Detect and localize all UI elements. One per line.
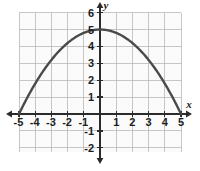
y-axis-arrow-top (97, 2, 104, 8)
x-tick-label: 3 (146, 116, 152, 128)
y-tick-label: 5 (88, 24, 94, 36)
x-tick-label: 5 (178, 116, 184, 128)
y-tick-label: 6 (88, 7, 94, 19)
y-tick-label: 1 (88, 91, 94, 103)
y-tick-label: 2 (88, 74, 94, 86)
x-axis-arrow-right (186, 111, 192, 118)
x-tick-label: -4 (30, 116, 41, 128)
x-tick-label: -5 (14, 116, 24, 128)
x-tick-label: -3 (46, 116, 56, 128)
y-tick-label: -2 (84, 142, 94, 154)
graph-canvas: -5-4-3-2-112345 654321-1-2 x y (0, 0, 200, 171)
x-tick-label: 4 (162, 116, 169, 128)
coordinate-graph: -5-4-3-2-112345 654321-1-2 x y (0, 0, 200, 171)
y-tick-label: -1 (84, 125, 94, 137)
x-tick-label: -2 (62, 116, 72, 128)
x-axis-arrow-left (6, 111, 12, 118)
x-tick-label: 1 (113, 116, 119, 128)
y-axis-label: y (102, 0, 109, 11)
y-axis-arrow-bottom (97, 158, 104, 164)
y-tick-label: 3 (88, 57, 94, 69)
y-tick-label: 4 (88, 40, 95, 52)
x-tick-label: 2 (129, 116, 135, 128)
x-axis-label: x (185, 98, 192, 110)
